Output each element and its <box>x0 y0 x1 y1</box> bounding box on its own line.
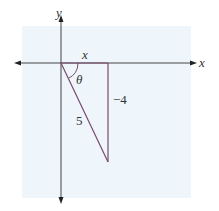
adjacent-side-label: x <box>81 47 88 62</box>
background-panel <box>22 26 191 198</box>
hypotenuse-label: 5 <box>76 113 83 128</box>
opposite-side-label: −4 <box>113 92 127 107</box>
x-axis-right-arrow-icon <box>190 61 197 66</box>
x-axis-left-arrow-icon <box>14 61 21 66</box>
coordinate-diagram: x y x θ −4 5 <box>0 0 219 211</box>
y-axis-down-arrow-icon <box>59 197 64 204</box>
angle-theta-label: θ <box>76 72 83 87</box>
x-axis-label: x <box>198 55 205 70</box>
y-axis-label: y <box>54 5 62 20</box>
